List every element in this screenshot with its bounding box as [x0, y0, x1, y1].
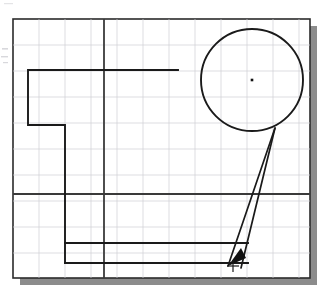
scan-artifact-smudges: [1, 3, 13, 63]
drawing-page: [0, 0, 331, 298]
technical-drawing-canvas: [0, 0, 331, 298]
circle-center-point-icon: [251, 79, 254, 82]
drawing-frame: [13, 19, 310, 278]
